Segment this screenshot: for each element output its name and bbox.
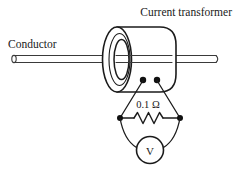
conductor-rod-left xyxy=(12,55,116,62)
current-transformer-core xyxy=(103,27,177,92)
core-face-outer xyxy=(103,27,132,92)
burden-resistor xyxy=(117,113,183,124)
resistor-value-label: 0.1 Ω xyxy=(136,99,160,110)
conductor-end-cap-right xyxy=(216,56,218,63)
conductor-label: Conductor xyxy=(8,38,57,50)
schematic-canvas: V Current transformer Conductor 0.1 Ω xyxy=(0,0,238,170)
voltmeter: V xyxy=(137,137,164,164)
voltmeter-label: V xyxy=(146,145,154,157)
voltmeter-lead-left xyxy=(120,118,137,148)
conductor-end-cap-left xyxy=(12,55,16,62)
resistor-zigzag xyxy=(134,113,163,124)
current-transformer-label: Current transformer xyxy=(140,6,232,18)
current-transformer-figure: V Current transformer Conductor 0.1 Ω xyxy=(0,0,238,170)
voltmeter-lead-right xyxy=(164,118,181,148)
conductor-rod-right xyxy=(170,56,218,63)
